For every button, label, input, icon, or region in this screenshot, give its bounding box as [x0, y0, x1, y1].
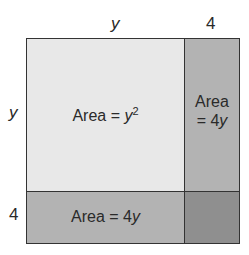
left-4-label: 4: [9, 205, 18, 225]
top-y-label: y: [111, 14, 120, 34]
left-y-label: y: [9, 103, 18, 123]
right-area-label: Area = 4y: [184, 92, 240, 130]
top-4-label: 4: [206, 14, 215, 34]
sixteen-region: [184, 191, 240, 244]
bottom-area-label: Area = 4y: [26, 207, 185, 226]
y-squared-area-label: Area = y2: [26, 102, 185, 125]
